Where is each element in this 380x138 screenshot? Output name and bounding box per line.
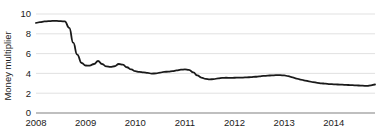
- y-tick-label: 6: [26, 48, 31, 59]
- y-tick-label: 2: [26, 88, 31, 99]
- x-tick-label: 2010: [125, 117, 146, 128]
- y-tick-label: 10: [20, 8, 31, 19]
- y-axis-tick-labels: 0246810: [20, 8, 31, 118]
- y-tick-label: 8: [26, 28, 31, 39]
- x-tick-label: 2008: [25, 117, 46, 128]
- x-tick-label: 2009: [75, 117, 96, 128]
- y-tick-label: 4: [26, 68, 31, 79]
- chart-plot-area: 0246810 2008200920102011201220132014 Mon…: [0, 0, 380, 138]
- y-axis-title: Money multiplier: [2, 31, 13, 100]
- x-tick-label: 2013: [274, 117, 295, 128]
- x-tick-label: 2011: [175, 117, 195, 128]
- gridlines-group: [36, 14, 375, 93]
- x-tick-label: 2014: [323, 117, 344, 128]
- x-tick-label: 2012: [224, 117, 245, 128]
- x-axis-tick-labels: 2008200920102011201220132014: [25, 117, 344, 128]
- money-multiplier-chart: 0246810 2008200920102011201220132014 Mon…: [0, 0, 380, 138]
